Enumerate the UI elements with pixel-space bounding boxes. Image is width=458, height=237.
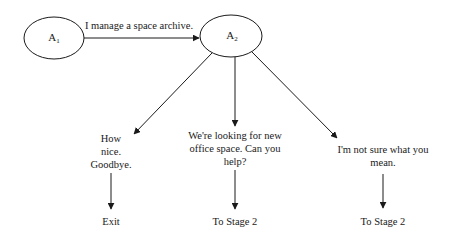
response-3-line-2: mean. (330, 156, 436, 169)
response-3-line-1: I'm not sure what you (330, 143, 436, 156)
response-2-text: We're looking for new office space. Can … (180, 129, 290, 168)
response-1-outcome: Exit (81, 215, 141, 228)
response-3-outcome: To Stage 2 (343, 215, 423, 228)
response-1-line-3: Goodbye. (81, 158, 141, 171)
response-2-line-1: We're looking for new (180, 129, 290, 142)
response-1-line-2: nice. (81, 145, 141, 158)
response-2-outcome: To Stage 2 (195, 215, 275, 228)
node-a1-label: A1 (44, 31, 64, 47)
arrow-a2-to-response-3 (252, 52, 337, 138)
node-a1-label-sub: 1 (56, 37, 60, 45)
node-a2-label: A2 (222, 29, 242, 45)
response-3-text: I'm not sure what you mean. (330, 143, 436, 169)
dialogue-flow-diagram: A1 A2 I manage a space archive. How nice… (0, 0, 458, 237)
arrow-a2-to-response-1 (134, 53, 212, 134)
node-a2-label-sub: 2 (234, 35, 238, 43)
response-2-line-2: office space. Can you (180, 142, 290, 155)
response-1-line-1: How (81, 132, 141, 145)
response-1-text: How nice. Goodbye. (81, 132, 141, 171)
edge-label-a1-a2: I manage a space archive. (82, 19, 196, 32)
response-2-line-3: help? (180, 155, 290, 168)
